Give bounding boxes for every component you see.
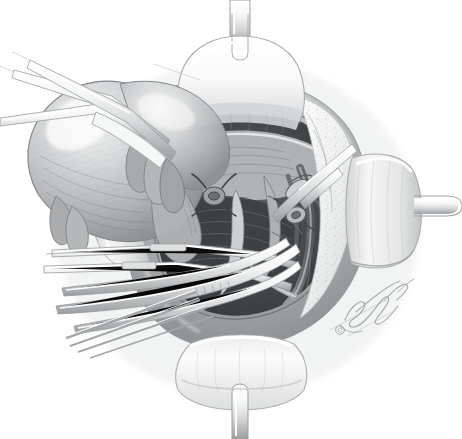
forceps-2-box-lock [122, 262, 156, 269]
blade-bottom-stem[interactable] [232, 384, 248, 439]
surgical-illustration [0, 0, 462, 439]
forceps-1-box-lock [150, 244, 186, 251]
illustration-canvas: Pelvic operative field exposed by a four… [0, 0, 462, 439]
